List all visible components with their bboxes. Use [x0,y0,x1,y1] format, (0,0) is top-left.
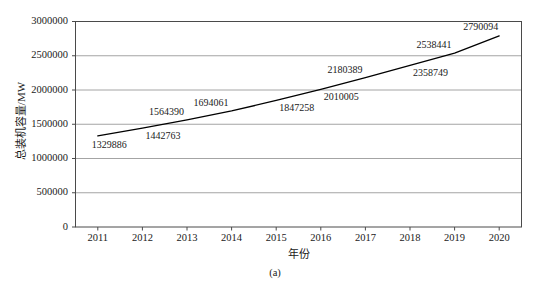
data-series-line [98,36,499,136]
x-tick-label: 2016 [310,231,331,244]
data-point-labels: 1329886144276315643901694061184725820100… [92,21,498,150]
data-point-label: 2538441 [417,39,452,50]
data-point-label: 1442763 [145,130,180,141]
data-point-label: 1694061 [194,97,229,108]
x-tick-label: 2012 [132,231,153,244]
x-tick-label: 2013 [177,231,198,244]
gridlines [76,56,522,193]
figure-caption: (a) [0,266,550,279]
x-axis-tick-labels: 2011201220132014201520162017201820192020 [0,231,550,247]
figure-panel: 总装机容量/MW 0500000100000015000002000000250… [0,0,550,291]
x-tick-label: 2020 [489,231,510,244]
x-tick-label: 2017 [355,231,376,244]
x-tick-label: 2015 [266,231,287,244]
data-point-label: 1329886 [92,139,127,150]
x-tick-label: 2014 [221,231,242,244]
data-point-label: 2180389 [327,64,362,75]
x-axis-tick-marks [98,227,499,231]
x-tick-label: 2018 [400,231,421,244]
x-tick-label: 2019 [444,231,465,244]
data-point-label: 1564390 [149,106,184,117]
x-axis-title: 年份 [75,247,522,261]
data-point-label: 2010005 [324,91,359,102]
data-point-label: 1847258 [279,102,314,113]
x-tick-label: 2011 [87,231,108,244]
data-point-label: 2358749 [413,67,448,78]
y-axis-tick-marks [72,22,76,228]
data-point-label: 2790094 [463,21,498,32]
